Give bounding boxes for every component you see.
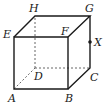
label-f: F bbox=[60, 25, 69, 38]
label-c: C bbox=[90, 71, 99, 84]
edge-AD bbox=[14, 68, 35, 89]
label-e: E bbox=[2, 28, 11, 41]
label-g: G bbox=[85, 2, 94, 15]
label-h: H bbox=[28, 2, 39, 15]
point-x-marker bbox=[88, 40, 92, 44]
label-d: D bbox=[33, 70, 43, 83]
label-b: B bbox=[64, 92, 73, 105]
label-x: X bbox=[93, 36, 103, 49]
label-a: A bbox=[7, 92, 16, 105]
cube-diagram: H G E F X D C A B bbox=[0, 0, 109, 106]
visible-edges bbox=[14, 16, 90, 89]
top-face-edges bbox=[14, 16, 90, 37]
